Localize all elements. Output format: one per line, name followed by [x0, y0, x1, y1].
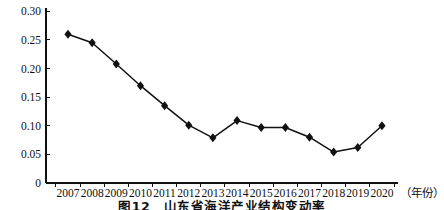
data-point — [282, 123, 289, 132]
data-point — [161, 101, 168, 110]
series-line — [68, 34, 382, 152]
data-point — [330, 148, 337, 157]
line-chart: 00.050.100.150.200.250.30200720082009201… — [0, 0, 444, 210]
figure-caption: 图12 山东省海洋产业结构变动率 — [0, 196, 444, 210]
y-tick-label: 0.30 — [21, 5, 41, 17]
data-point — [209, 133, 216, 142]
data-point — [258, 123, 265, 132]
y-tick-label: 0 — [35, 177, 41, 189]
data-point — [64, 30, 71, 39]
y-tick-label: 0.20 — [21, 63, 41, 75]
data-point — [185, 121, 192, 130]
data-point — [306, 133, 313, 142]
y-tick-label: 0.10 — [21, 120, 41, 132]
data-point — [233, 116, 240, 125]
y-tick-label: 0.05 — [21, 148, 41, 160]
chart-figure: 00.050.100.150.200.250.30200720082009201… — [0, 0, 444, 210]
y-tick-label: 0.15 — [21, 91, 41, 103]
y-tick-label: 0.25 — [21, 34, 41, 46]
